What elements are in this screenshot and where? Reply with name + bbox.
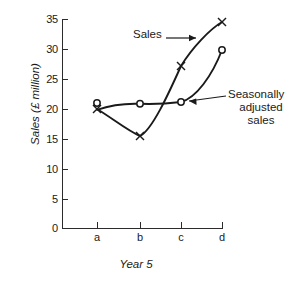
marker-sales-c xyxy=(177,62,185,70)
marker-sales-d xyxy=(218,18,226,26)
series-line-seasonally-adjusted-sales xyxy=(97,50,222,110)
annotation-arrow-sales xyxy=(166,35,196,41)
annotation-label-sales: Sales xyxy=(133,28,162,41)
annotation-arrow-seasonally-adjusted xyxy=(189,96,226,105)
marker-seasonal-b xyxy=(137,101,143,107)
chart-figure: 35 30 25 20 15 10 5 0 a b c d Sales (£ m… xyxy=(0,0,294,281)
annotation-line-1: Seasonally xyxy=(228,88,294,101)
annotation-label-seasonally-adjusted-sales: Seasonally adjusted sales xyxy=(228,88,294,128)
plot-area xyxy=(0,0,294,281)
annotation-line-2: adjusted xyxy=(228,101,294,114)
marker-seasonal-d xyxy=(219,47,225,53)
marker-seasonal-a xyxy=(94,100,100,106)
marker-sales-b xyxy=(136,132,144,140)
annotation-line-3: sales xyxy=(228,114,294,127)
marker-seasonal-c xyxy=(178,99,184,105)
